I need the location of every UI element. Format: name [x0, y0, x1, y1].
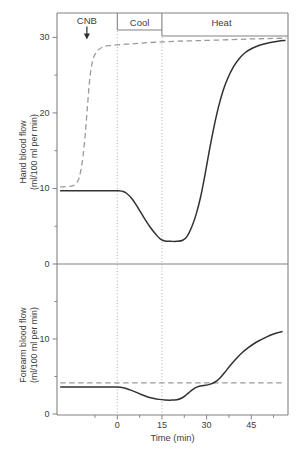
curves-layer — [60, 38, 286, 400]
blood-flow-figure: 01020300100153045 CNB Cool Heat Hand blo… — [0, 0, 303, 459]
phase-label-cnb: CNB — [77, 15, 97, 26]
forearm-ylabel-line2: (ml/100 ml per min) — [29, 307, 39, 383]
phase-label-cool: Cool — [130, 17, 150, 28]
top-solid-hand-flow-curve — [60, 40, 285, 241]
bottom-ytick-label-10: 10 — [39, 334, 49, 344]
plot-frame — [57, 13, 288, 415]
guide-vlines-layer — [117, 31, 162, 415]
top-dashed-hand-flow-curve — [60, 38, 286, 187]
xtick-label-15: 15 — [157, 420, 167, 430]
top-ytick-label-10: 10 — [39, 183, 49, 193]
chart-svg: 01020300100153045 CNB Cool Heat Hand blo… — [0, 0, 303, 459]
ticks-layer: 01020300100153045 — [39, 32, 273, 430]
xtick-label-30: 30 — [202, 420, 212, 430]
bottom-solid-forearm-flow-curve — [60, 332, 282, 401]
phase-label-heat: Heat — [211, 17, 231, 28]
top-ytick-label-0: 0 — [44, 259, 49, 269]
hand-ylabel-line2: (ml/100 ml per min) — [29, 114, 39, 190]
xtick-label-0: 0 — [115, 420, 120, 430]
cnb-arrow-icon — [84, 27, 90, 40]
top-ytick-label-20: 20 — [39, 108, 49, 118]
hand-ylabel-line1: Hand blood flow — [18, 120, 28, 184]
top-ytick-label-30: 30 — [39, 32, 49, 42]
xtick-label-45: 45 — [246, 420, 256, 430]
x-axis-title: Time (min) — [150, 433, 194, 443]
bottom-ytick-label-0: 0 — [44, 409, 49, 419]
forearm-ylabel-line1: Forearm blood flow — [18, 307, 28, 383]
